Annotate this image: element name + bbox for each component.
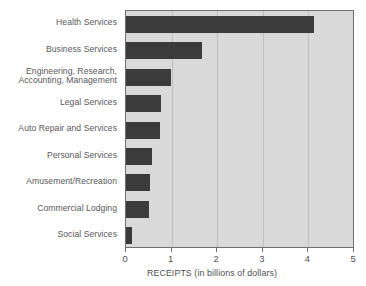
bar <box>126 69 171 86</box>
bar <box>126 174 150 191</box>
x-axis-tick <box>262 248 263 252</box>
gridline <box>263 11 264 247</box>
bar <box>126 16 314 33</box>
plot-area <box>125 10 354 248</box>
bar <box>126 148 152 165</box>
y-axis-label: Engineering, Research, Accounting, Manag… <box>0 67 117 86</box>
x-axis-tick <box>171 248 172 252</box>
x-axis-tick <box>353 248 354 252</box>
y-axis-label: Commercial Lodging <box>0 204 117 214</box>
bar <box>126 122 160 139</box>
bar <box>126 95 161 112</box>
y-axis-label: Legal Services <box>0 98 117 108</box>
y-axis-label: Business Services <box>0 45 117 55</box>
bar <box>126 201 149 218</box>
x-axis-tick <box>216 248 217 252</box>
y-axis-label: Health Services <box>0 18 117 28</box>
y-axis-label: Personal Services <box>0 151 117 161</box>
x-axis-tick-label: 0 <box>115 253 135 264</box>
x-axis-tick-label: 2 <box>206 253 226 264</box>
x-axis-tick-label: 5 <box>343 253 363 264</box>
x-axis-tick <box>125 248 126 252</box>
x-axis-title: RECEIPTS (in billions of dollars) <box>0 268 366 278</box>
gridline <box>217 11 218 247</box>
bar <box>126 42 202 59</box>
gridline <box>308 11 309 247</box>
bar <box>126 227 132 244</box>
x-axis-tick-label: 4 <box>297 253 317 264</box>
x-axis-tick-label: 3 <box>252 253 272 264</box>
y-axis-label: Social Services <box>0 230 117 240</box>
chart-page: Health ServicesBusiness ServicesEngineer… <box>0 0 366 286</box>
x-axis-tick <box>307 248 308 252</box>
y-axis-category-labels: Health ServicesBusiness ServicesEngineer… <box>0 10 121 248</box>
x-axis-tick-label: 1 <box>161 253 181 264</box>
y-axis-label: Auto Repair and Services <box>0 124 117 134</box>
y-axis-label: Amusement/Recreation <box>0 177 117 187</box>
